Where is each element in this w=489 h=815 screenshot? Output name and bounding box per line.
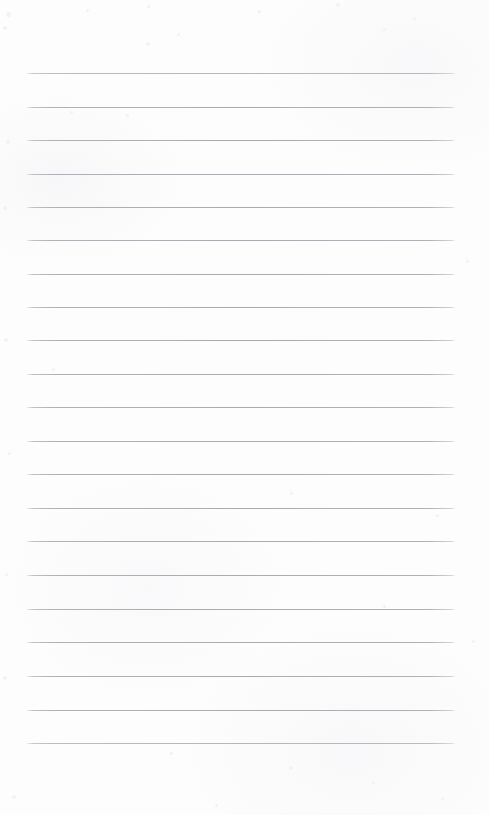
- paper-speckle: [70, 111, 73, 114]
- rule-line: [27, 107, 455, 108]
- rule-line: [27, 575, 455, 576]
- paper-speckle: [215, 804, 218, 807]
- paper-speckle: [4, 338, 8, 342]
- paper-speckle: [8, 452, 11, 455]
- paper-speckle: [3, 676, 7, 680]
- rule-line: [27, 274, 455, 275]
- rule-line: [27, 240, 455, 241]
- ruled-lines-group: [0, 0, 489, 815]
- rule-line: [27, 609, 455, 610]
- lined-paper-page: [0, 0, 489, 815]
- paper-speckle: [170, 752, 173, 755]
- paper-speckle: [413, 17, 416, 20]
- rule-line: [27, 73, 455, 74]
- rule-line: [27, 407, 455, 408]
- paper-speckle: [146, 42, 150, 46]
- paper-speckle: [5, 573, 8, 576]
- rule-line: [27, 441, 455, 442]
- paper-speckle: [372, 781, 375, 784]
- paper-speckle: [3, 206, 7, 210]
- rule-line: [27, 541, 455, 542]
- paper-speckle: [466, 260, 469, 263]
- rule-line: [27, 642, 455, 643]
- rule-line: [27, 743, 455, 744]
- paper-speckle: [258, 10, 261, 13]
- paper-speckle: [383, 28, 386, 31]
- paper-speckle: [86, 9, 89, 12]
- rule-line: [27, 474, 455, 475]
- paper-speckle: [3, 26, 7, 30]
- rule-line: [27, 508, 455, 509]
- paper-speckle: [126, 114, 129, 117]
- rule-line: [27, 140, 455, 141]
- paper-speckle: [52, 368, 55, 371]
- paper-speckle: [441, 797, 444, 800]
- paper-speckle: [472, 640, 475, 643]
- rule-line: [27, 174, 455, 175]
- paper-speckle: [436, 514, 439, 517]
- paper-speckle: [289, 766, 293, 770]
- paper-speckle: [290, 492, 293, 495]
- paper-speckle: [383, 605, 386, 608]
- rule-line: [27, 710, 455, 711]
- paper-speckle: [177, 33, 180, 36]
- rule-line: [27, 307, 455, 308]
- rule-line: [27, 340, 455, 341]
- rule-line: [27, 676, 455, 677]
- paper-speckle: [147, 5, 150, 8]
- paper-speckle: [6, 12, 11, 17]
- paper-speckle: [6, 140, 10, 144]
- paper-speckle: [336, 3, 340, 7]
- rule-line: [27, 374, 455, 375]
- rule-line: [27, 207, 455, 208]
- paper-speckle: [12, 795, 16, 799]
